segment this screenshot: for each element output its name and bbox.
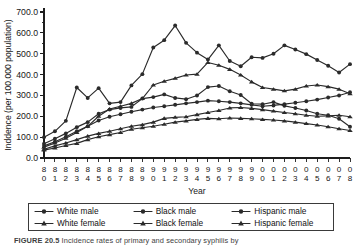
x-tick-label-decade: 8 [85, 165, 90, 174]
x-tick-label-decade: 8 [96, 165, 101, 174]
data-point [337, 117, 341, 121]
data-point [348, 125, 352, 129]
x-tick-label-year: 2 [282, 174, 287, 183]
legend-item: White female [34, 217, 133, 229]
legend-label: Hispanic male [254, 207, 306, 215]
x-tick-label-decade: 8 [140, 165, 145, 174]
data-point [64, 119, 68, 123]
x-tick-label-year: 7 [118, 174, 123, 183]
data-point [326, 64, 330, 68]
x-tick-label-decade: 0 [337, 165, 342, 174]
x-tick-label-decade: 0 [271, 165, 276, 174]
x-tick-label-year: 6 [326, 174, 331, 183]
x-tick-label-decade: 0 [304, 165, 309, 174]
legend-label: Black female [156, 219, 204, 227]
x-tick-label-decade: 0 [348, 165, 353, 174]
data-point [173, 96, 177, 100]
x-tick-label-decade: 0 [260, 165, 265, 174]
legend-circle-marker-icon [34, 207, 54, 216]
data-point [184, 97, 188, 101]
legend-circle-marker-icon [133, 207, 153, 216]
data-point [119, 100, 123, 104]
y-tick-label: 500.0 [16, 49, 38, 59]
data-point [108, 101, 112, 105]
x-tick-label-decade: 9 [217, 165, 222, 174]
data-point [239, 64, 243, 68]
data-point [42, 135, 46, 139]
x-tick-label-decade: 8 [75, 165, 80, 174]
legend-triangle-marker-icon [34, 219, 54, 228]
y-tick-label: 600.0 [16, 28, 38, 38]
data-point [75, 86, 79, 90]
x-tick-label-year: 8 [129, 174, 134, 183]
caption-label: FIGURE 20.5 [14, 236, 59, 245]
data-point [195, 100, 199, 104]
x-tick-label-year: 4 [304, 174, 309, 183]
x-tick-label-year: 1 [271, 174, 276, 183]
x-tick-label-year: 1 [53, 174, 58, 183]
data-point [217, 99, 221, 103]
data-point [86, 120, 90, 124]
x-tick-label-decade: 8 [118, 165, 123, 174]
caption-text: Incidence rates of primary and secondary… [59, 236, 238, 245]
data-point [64, 131, 68, 135]
data-point [205, 60, 211, 64]
data-point [228, 89, 232, 93]
x-tick-label-decade: 9 [228, 165, 233, 174]
data-point [261, 56, 265, 60]
x-axis-title: Year [188, 186, 206, 196]
data-point [250, 103, 254, 107]
x-tick-label-year: 9 [140, 174, 145, 183]
legend-label: White female [57, 219, 105, 227]
data-point [315, 58, 319, 62]
data-point [108, 115, 112, 119]
y-tick-label: 200.0 [16, 111, 38, 121]
data-point [337, 71, 341, 75]
data-point [282, 43, 286, 47]
legend-item: Hispanic male [231, 205, 330, 217]
data-point [195, 93, 199, 97]
data-point [173, 103, 177, 107]
x-tick-label-year: 0 [151, 174, 156, 183]
data-point [293, 101, 297, 105]
x-tick-label-decade: 0 [315, 165, 320, 174]
y-tick-label: 300.0 [16, 90, 38, 100]
data-point [173, 24, 177, 28]
data-point [239, 101, 243, 105]
figure-caption: FIGURE 20.5 Incidence rates of primary a… [14, 236, 352, 245]
x-tick-label-decade: 0 [326, 165, 331, 174]
x-tick-label-decade: 0 [282, 165, 287, 174]
data-point [151, 106, 155, 110]
x-tick-label-decade: 9 [173, 165, 178, 174]
data-point [53, 129, 57, 133]
data-point [140, 108, 144, 112]
x-tick-label-year: 7 [337, 174, 342, 183]
data-point [304, 108, 308, 112]
x-tick-label-decade: 9 [238, 165, 243, 174]
x-tick-label-decade: 8 [64, 165, 69, 174]
data-point [293, 48, 297, 52]
y-axis-title: Inddence (per 100,000 population) [3, 19, 13, 151]
data-point [184, 41, 188, 45]
x-tick-label-decade: 0 [293, 165, 298, 174]
data-point [304, 52, 308, 56]
legend-item: Black female [133, 217, 232, 229]
x-tick-label-decade: 8 [42, 165, 47, 174]
data-point [129, 83, 133, 87]
data-point [151, 95, 155, 99]
data-point [129, 110, 133, 114]
x-tick-label-year: 0 [42, 174, 47, 183]
data-point [129, 105, 133, 109]
legend-label: Black male [156, 207, 197, 215]
legend-label: Hispanic female [254, 219, 313, 227]
legend-triangle-marker-icon [133, 219, 153, 228]
x-tick-label-year: 8 [348, 174, 353, 183]
data-point [206, 99, 210, 103]
data-point [272, 52, 276, 56]
legend-item: Hispanic female [231, 217, 330, 229]
data-point [315, 98, 319, 102]
x-tick-label-year: 4 [195, 174, 200, 183]
incidence-line-chart: 0.0100.0200.0300.0400.0500.0600.0700.080… [0, 0, 356, 200]
x-tick-label-year: 3 [293, 174, 298, 183]
y-tick-label: 700.0 [16, 7, 38, 17]
